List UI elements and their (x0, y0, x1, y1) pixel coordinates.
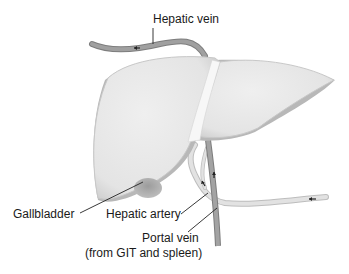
gallbladder-shape (134, 178, 162, 198)
label-hepatic-vein: Hepatic vein (153, 12, 219, 26)
label-portal-vein: Portal vein (142, 231, 199, 245)
label-gallbladder: Gallbladder (13, 207, 74, 221)
label-portal-vein-note: (from GIT and spleen) (85, 246, 202, 260)
hepatic-vein-vessel (92, 41, 205, 56)
leader-hepatic-artery (181, 193, 208, 214)
leader-portal-vein (188, 208, 217, 232)
label-hepatic-artery: Hepatic artery (106, 207, 181, 221)
liver-diagram: Hepatic vein Gallbladder Hepatic artery … (0, 0, 349, 274)
